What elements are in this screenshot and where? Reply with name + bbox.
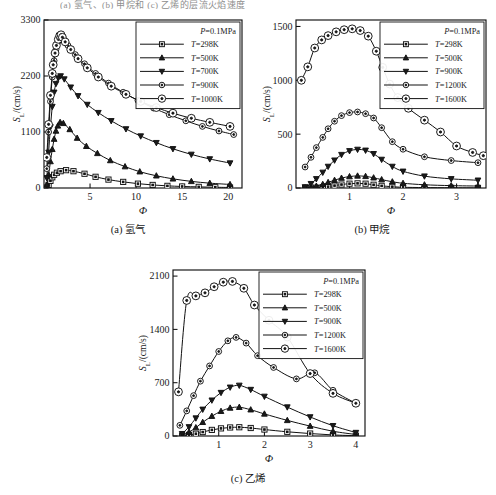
marker-square — [82, 171, 87, 176]
marker-circle-dot-large — [329, 389, 337, 397]
y-axis-title: SL/(cm/s) — [262, 86, 276, 122]
chart-panel-methane: 123050010001500ΦSL/(cm/s)P=0.1MPaT=298KT… — [258, 12, 492, 222]
marker-circle-dot-large — [324, 32, 332, 40]
marker-square — [58, 169, 63, 174]
marker-circle-dot-large — [48, 70, 56, 78]
marker-square — [213, 185, 218, 190]
marker-square — [159, 42, 164, 47]
marker-circle-dot-large — [49, 61, 57, 69]
marker-square — [165, 183, 170, 188]
y-tick-label: 2200 — [21, 70, 41, 81]
marker-circle-dot-small — [294, 376, 300, 382]
marker-triangle-down — [95, 110, 101, 115]
marker-circle-dot-large — [45, 120, 53, 128]
marker-square — [285, 429, 290, 434]
marker-circle-dot-large — [206, 118, 214, 126]
legend-label: T=1000K — [191, 95, 223, 104]
marker-circle-dot-small — [379, 125, 385, 131]
marker-square — [248, 425, 253, 430]
marker-circle-dot-small — [355, 109, 361, 115]
marker-circle-dot-large — [250, 301, 258, 309]
legend-title: P=0.1MPa — [199, 27, 236, 36]
marker-circle-dot-large — [107, 82, 115, 90]
marker-circle-dot-small — [243, 340, 249, 346]
x-tick-label: 2 — [401, 191, 406, 202]
y-tick-label: 0 — [165, 430, 170, 441]
chart-panel-ethylene: 1234070014002100ΦSL/(cm/s)P=0.1MPaT=298K… — [133, 262, 371, 470]
svg-text:SL/(cm/s): SL/(cm/s) — [262, 86, 276, 122]
marker-circle-dot-large — [421, 116, 429, 124]
marker-square — [262, 427, 267, 432]
series-t1200k — [302, 109, 481, 170]
marker-circle-dot-large — [47, 91, 55, 99]
marker-circle-dot-large — [304, 63, 312, 71]
marker-circle-dot-large — [169, 109, 177, 117]
marker-square — [403, 42, 408, 47]
marker-triangle-up — [53, 128, 59, 133]
cropped-header-text: (a) 氢气、(b) 甲烷和 (c) 乙烯的层流火焰速度 — [60, 0, 390, 9]
marker-triangle-down — [84, 102, 90, 107]
marker-circle-dot-large — [297, 76, 305, 84]
legend: P=0.1MPaT=298KT=500KT=900KT=1200KT=1600K — [259, 272, 363, 359]
x-tick-label: 1 — [347, 191, 352, 202]
legend-label: T=500K — [314, 304, 342, 313]
marker-circle-dot-large — [281, 345, 288, 352]
marker-triangle-up — [200, 419, 206, 424]
figure-root: (a) 氢气、(b) 甲烷和 (c) 乙烯的层流火焰速度 51015200110… — [0, 0, 496, 495]
legend-label: T=700K — [191, 67, 219, 76]
marker-triangle-up — [95, 150, 101, 155]
marker-circle-dot-large — [340, 26, 348, 34]
x-axis-title: Φ — [387, 204, 396, 216]
legend: P=0.1MPaT=298KT=500KT=700KT=900KT=1000K — [136, 22, 240, 109]
marker-square — [282, 292, 287, 297]
marker-circle-dot-small — [320, 134, 326, 140]
marker-circle-dot-small — [198, 378, 204, 384]
legend-label: T=298K — [191, 40, 219, 49]
marker-circle-dot-large — [187, 114, 195, 122]
y-tick-label: 3300 — [21, 14, 41, 25]
marker-circle-dot-large — [43, 154, 51, 162]
y-tick-label: 0 — [288, 182, 293, 193]
marker-circle-dot-small — [400, 146, 406, 152]
y-tick-label: 0 — [36, 182, 41, 193]
plot-b: 123050010001500ΦSL/(cm/s)P=0.1MPaT=298KT… — [258, 12, 492, 222]
marker-circle-dot-large — [469, 149, 477, 157]
marker-square — [64, 168, 69, 173]
marker-circle-dot-small — [422, 154, 428, 160]
marker-square — [371, 182, 376, 187]
marker-square — [237, 425, 242, 430]
x-tick-label: 10 — [131, 191, 141, 202]
marker-circle-dot-small — [216, 349, 222, 355]
marker-circle-dot-small — [233, 334, 239, 340]
marker-circle-dot-large — [210, 283, 218, 291]
marker-circle-dot-large — [437, 128, 445, 136]
marker-square — [363, 181, 368, 186]
marker-circle-dot-large — [229, 278, 237, 286]
marker-square — [339, 182, 344, 187]
marker-circle-dot-large — [122, 90, 130, 98]
marker-circle-dot-large — [306, 370, 314, 378]
marker-triangle-down — [371, 152, 377, 157]
marker-circle-dot-large — [226, 123, 234, 131]
series-line — [182, 427, 356, 435]
marker-triangle-down — [218, 390, 224, 395]
marker-square — [196, 184, 201, 189]
marker-circle-dot-large — [356, 27, 364, 35]
legend: P=0.1MPaT=298KT=500KT=900KT=1200KT=1600K — [380, 22, 484, 109]
marker-circle-dot-small — [339, 113, 345, 119]
marker-square — [308, 431, 313, 436]
x-tick-label: 20 — [223, 191, 233, 202]
marker-square — [228, 425, 233, 430]
marker-square — [332, 183, 337, 188]
marker-circle-dot-small — [448, 158, 454, 164]
y-tick-label: 2100 — [150, 270, 170, 281]
x-tick-label: 3 — [308, 439, 313, 450]
marker-circle-dot-small — [231, 132, 237, 138]
legend-label: T=298K — [435, 40, 463, 49]
x-tick-label: 15 — [177, 191, 187, 202]
marker-square — [106, 177, 111, 182]
y-tick-label: 700 — [155, 377, 170, 388]
marker-square — [71, 169, 76, 174]
marker-circle-dot-small — [207, 363, 213, 369]
marker-circle-dot-large — [219, 278, 227, 286]
